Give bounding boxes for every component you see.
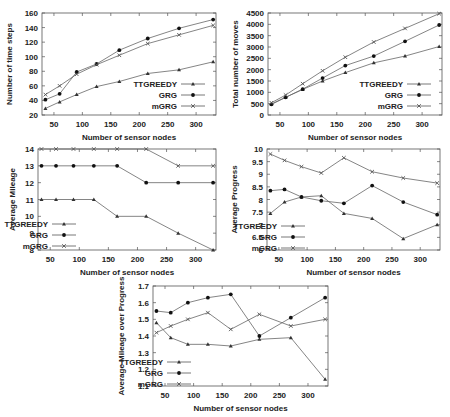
legend-label: mGRG (152, 102, 177, 111)
y-tick-label: 0 (260, 111, 265, 120)
series-line (270, 154, 437, 183)
circle-marker-icon (72, 164, 76, 168)
legend-label: mGRG (23, 242, 48, 251)
circle-marker-icon (115, 164, 119, 168)
series-line (271, 25, 439, 104)
legend-label: TTGREEDY (233, 222, 277, 231)
legend-label: GRG (259, 233, 277, 242)
y-tick-label: 10 (254, 145, 263, 154)
legend-label: mGRG (378, 102, 403, 111)
chart-4: 66.577.588.599.51050100150200250300Numbe… (230, 145, 440, 277)
circle-marker-icon (323, 296, 327, 300)
series-grg (40, 164, 215, 185)
x-tick-label: 50 (46, 255, 55, 264)
y-tick-label: 4000 (246, 20, 264, 29)
figure-panel: 2040608010012014016050100150200250300Num… (0, 0, 450, 417)
x-marker-icon (437, 12, 441, 16)
y-tick-label: 14 (25, 145, 34, 154)
legend: TTGREEDYGRGmGRG (4, 220, 76, 251)
legend-label: GRG (159, 91, 177, 100)
circle-marker-icon (291, 235, 295, 239)
plot-frame (268, 13, 442, 115)
circle-marker-icon (177, 371, 181, 375)
circle-marker-icon (176, 181, 180, 185)
series-line (156, 294, 325, 336)
circle-marker-icon (54, 164, 58, 168)
series-grg (268, 184, 439, 217)
y-tick-label: 2000 (246, 66, 264, 75)
circle-marker-icon (229, 292, 233, 296)
circle-marker-icon (370, 184, 374, 188)
x-tick-label: 250 (385, 255, 399, 264)
y-tick-label: 100 (25, 53, 39, 62)
x-tick-label: 100 (76, 120, 90, 129)
circle-marker-icon (372, 54, 376, 58)
series-ttgreedy (43, 60, 215, 110)
x-marker-icon (269, 152, 273, 156)
x-tick-label: 300 (189, 120, 203, 129)
circle-marker-icon (342, 201, 346, 205)
y-tick-label: 9 (259, 170, 264, 179)
legend-label: mGRG (252, 244, 277, 253)
circle-marker-icon (169, 311, 173, 315)
circle-marker-icon (211, 181, 215, 185)
circle-marker-icon (289, 316, 293, 320)
chart-3: 89101112131450100150200250300Number of s… (4, 145, 216, 277)
y-tick-label: 1.4 (138, 332, 150, 341)
series-ttgreedy (268, 194, 439, 240)
y-tick-label: 2500 (246, 54, 264, 63)
y-tick-label: 20 (29, 111, 38, 120)
series-mgrg (44, 24, 215, 97)
circle-marker-icon (321, 76, 325, 80)
circle-marker-icon (92, 164, 96, 168)
x-tick-label: 250 (387, 120, 401, 129)
series-line (41, 166, 213, 183)
y-tick-label: 60 (29, 82, 38, 91)
x-tick-label: 100 (73, 255, 87, 264)
circle-marker-icon (437, 23, 441, 27)
circle-marker-icon (146, 37, 150, 41)
x-axis-label: Number of sensor nodes (82, 133, 177, 142)
x-marker-icon (118, 53, 122, 57)
y-axis-label: Average Mileage over Progress (117, 276, 126, 395)
series-ttgreedy (39, 198, 215, 252)
x-marker-icon (169, 324, 173, 328)
circle-marker-icon (58, 92, 62, 96)
circle-marker-icon (301, 87, 305, 91)
circle-marker-icon (206, 296, 210, 300)
x-marker-icon (229, 328, 233, 332)
chart-1: 2040608010012014016050100150200250300Num… (5, 9, 216, 142)
y-tick-label: 140 (25, 24, 39, 33)
x-tick-label: 100 (302, 120, 316, 129)
legend-label: GRG (385, 91, 403, 100)
series-line (156, 323, 325, 380)
series-grg (270, 23, 442, 106)
legend-label: GRG (30, 231, 48, 240)
x-marker-icon (342, 156, 346, 160)
circle-marker-icon (62, 233, 66, 237)
circle-marker-icon (211, 18, 215, 22)
series-grg (44, 18, 216, 102)
legend-label: TTGREEDY (4, 220, 48, 229)
y-tick-label: 13 (25, 162, 34, 171)
series-line (271, 14, 439, 103)
triangle-marker-icon (154, 321, 158, 325)
y-tick-label: 8 (259, 196, 264, 205)
circle-marker-icon (403, 39, 407, 43)
x-axis-label: Number of sensor nodes (193, 404, 288, 413)
x-tick-label: 100 (187, 391, 201, 400)
y-tick-label: 1000 (246, 88, 264, 97)
circle-marker-icon (257, 334, 261, 338)
legend-label: GRG (145, 369, 163, 378)
circle-marker-icon (300, 195, 304, 199)
x-tick-label: 100 (300, 255, 314, 264)
legend: TTGREEDYGRGmGRG (233, 222, 305, 253)
x-marker-icon (258, 313, 262, 317)
y-tick-label: 3500 (246, 32, 264, 41)
plot-frame (153, 286, 328, 386)
series-mgrg (40, 147, 215, 167)
y-tick-label: 3000 (246, 43, 264, 52)
x-tick-label: 300 (414, 255, 428, 264)
x-axis-label: Number of sensor nodes (80, 268, 175, 277)
circle-marker-icon (401, 200, 405, 204)
